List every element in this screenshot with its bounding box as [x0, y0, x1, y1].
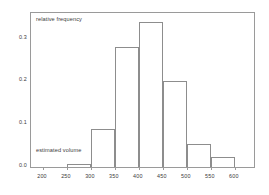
- y-axis-tick-label: 0.2: [19, 77, 27, 82]
- x-axis-tick-mark: [187, 167, 188, 170]
- histogram-bar: [67, 164, 91, 167]
- histogram-bar: [115, 47, 139, 167]
- y-axis-tick-label: 0.3: [19, 35, 27, 40]
- x-axis-tick-label: 350: [109, 174, 119, 179]
- y-axis-tick-label: 0.0: [19, 163, 27, 168]
- x-axis-tick-label: 250: [61, 174, 71, 179]
- x-axis-tick-label: 200: [37, 174, 47, 179]
- x-axis-tick-label: 500: [181, 174, 191, 179]
- histogram-bar: [211, 157, 235, 167]
- x-axis-tick-mark: [43, 167, 44, 170]
- x-axis-tick-label: 450: [157, 174, 167, 179]
- x-axis-label: estimated volume: [36, 148, 81, 154]
- y-axis-label: relative frequency: [36, 17, 82, 23]
- x-axis-tick-mark: [67, 167, 68, 170]
- histogram-figure: 0.00.10.20.3 relative frequency estimate…: [0, 0, 269, 195]
- x-axis-tick-mark: [139, 167, 140, 170]
- x-axis-tick-mark: [163, 167, 164, 170]
- plot-area: [31, 13, 254, 167]
- plot-frame: [30, 12, 255, 168]
- histogram-bar: [163, 81, 187, 167]
- x-axis-tick-label: 300: [85, 174, 95, 179]
- histogram-bar: [139, 22, 163, 167]
- y-axis-tick-labels: 0.00.10.20.3: [0, 0, 27, 195]
- x-axis-tick-mark: [235, 167, 236, 170]
- x-axis-tick-mark: [115, 167, 116, 170]
- histogram-bar: [187, 144, 211, 167]
- histogram-bar: [91, 129, 115, 168]
- x-axis-tick-mark: [91, 167, 92, 170]
- x-axis-tick-label: 550: [205, 174, 215, 179]
- y-axis-tick-label: 0.1: [19, 120, 27, 125]
- x-axis-tick-mark: [211, 167, 212, 170]
- x-axis-tick-label: 600: [229, 174, 239, 179]
- x-axis-tick-label: 400: [133, 174, 143, 179]
